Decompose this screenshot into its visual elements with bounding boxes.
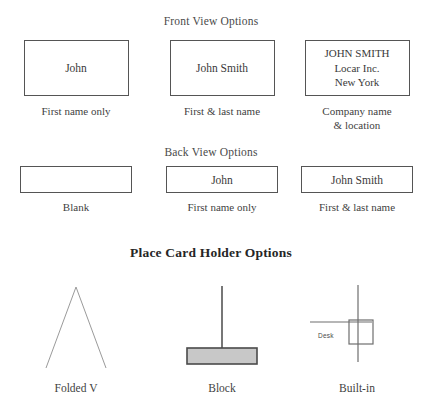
place-card-back-2-text: John	[211, 174, 233, 186]
front-caption-1: First name only	[41, 105, 110, 119]
holder-options-row: Folded V Block Desk Built-in	[0, 282, 422, 394]
front-caption-3-line-2: & location	[322, 119, 391, 133]
place-card-back-1-blank	[20, 166, 132, 193]
back-option-first-name-only: John First name only	[152, 166, 292, 215]
place-card-back-2: John	[166, 166, 278, 193]
back-view-heading: Back View Options	[0, 146, 422, 158]
place-card-holder-options-title: Place Card Holder Options	[0, 245, 422, 261]
holder-option-built-in: Desk Built-in	[292, 282, 422, 394]
desk-slot-icon	[302, 282, 412, 372]
place-card-options-diagram: Front View Options John First name only …	[0, 0, 422, 402]
back-caption-2: First name only	[187, 201, 256, 215]
holder-caption-2: Block	[208, 382, 235, 394]
front-view-card-row: John First name only John Smith First & …	[0, 40, 422, 132]
place-card-front-3-line-2: Locar Inc.	[334, 61, 379, 76]
front-option-first-and-last-name: John Smith First & last name	[152, 40, 292, 132]
holder-caption-1: Folded V	[55, 382, 98, 394]
place-card-front-1: John	[24, 40, 129, 96]
block-figure	[167, 282, 277, 372]
front-caption-3-line-1: Company name	[322, 105, 391, 119]
place-card-back-3: John Smith	[301, 166, 413, 193]
place-card-front-3-line-3: New York	[335, 75, 380, 90]
front-option-first-name-only: John First name only	[0, 40, 152, 132]
front-caption-3: Company name & location	[322, 105, 391, 132]
folded-v-figure	[21, 282, 131, 372]
tent-triangle-icon	[21, 282, 131, 372]
holder-caption-3: Built-in	[339, 382, 375, 394]
place-card-front-3-line-1: JOHN SMITH	[324, 46, 389, 61]
place-card-front-1-text: John	[65, 61, 87, 75]
holder-option-block: Block	[152, 282, 292, 394]
post-on-block-icon	[167, 282, 277, 372]
back-option-first-and-last-name: John Smith First & last name	[292, 166, 422, 215]
place-card-front-2-text: John Smith	[196, 61, 248, 75]
front-option-company-name-location: JOHN SMITH Locar Inc. New York Company n…	[292, 40, 422, 132]
front-caption-2: First & last name	[184, 105, 260, 119]
back-caption-3: First & last name	[319, 201, 395, 215]
place-card-back-3-text: John Smith	[331, 174, 383, 186]
front-view-heading: Front View Options	[0, 15, 422, 27]
back-option-blank: Blank	[0, 166, 152, 215]
desk-label: Desk	[318, 332, 334, 339]
built-in-figure: Desk	[302, 282, 412, 372]
back-view-card-row: Blank John First name only John Smith Fi…	[0, 166, 422, 215]
back-caption-1: Blank	[63, 201, 89, 215]
place-card-front-3: JOHN SMITH Locar Inc. New York	[305, 40, 410, 96]
place-card-front-2: John Smith	[170, 40, 275, 96]
holder-option-folded-v: Folded V	[0, 282, 152, 394]
